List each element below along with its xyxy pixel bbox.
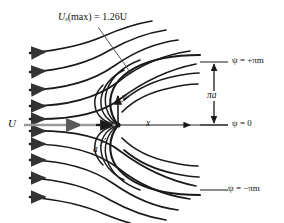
half-height-label: πa (206, 91, 218, 101)
freestream-label: U (8, 118, 16, 129)
source-distance-label: a (93, 145, 98, 155)
umax-label: Us(max) = 1.26U (58, 12, 127, 23)
streamlines-outer-upper (122, 73, 199, 112)
streamline-upper-1 (30, 21, 152, 53)
inflow-arrow-3 (30, 89, 44, 90)
stagnation-point (115, 122, 120, 127)
psi-bottom-label: ψ = −πm (228, 184, 260, 193)
x-axis-label: x (146, 119, 150, 129)
streamlines-outer-lower (122, 138, 199, 177)
y-axis-label: y (122, 93, 126, 103)
streamline-outer-u2 (124, 73, 199, 100)
inflow-arrow-2 (30, 71, 44, 72)
umax-leader-endpoint (128, 70, 132, 74)
streamline-lower-5 (30, 197, 130, 223)
inflow-arrow-1 (30, 52, 44, 53)
streamline-outer-u1 (122, 84, 198, 112)
umax-rest: (max) = 1.26U (68, 11, 127, 22)
streamline-outer-l2 (124, 150, 199, 177)
figure-canvas: Us(max) = 1.26U U x y a πa ψ = +πm ψ = 0… (0, 0, 284, 223)
streamlines-upper (30, 21, 196, 119)
psi-top-label: ψ = +πm (232, 56, 264, 65)
streamline-outer-l1 (122, 138, 198, 166)
psi-mid-label: ψ = 0 (232, 119, 252, 128)
streamlines-lower (30, 131, 196, 223)
